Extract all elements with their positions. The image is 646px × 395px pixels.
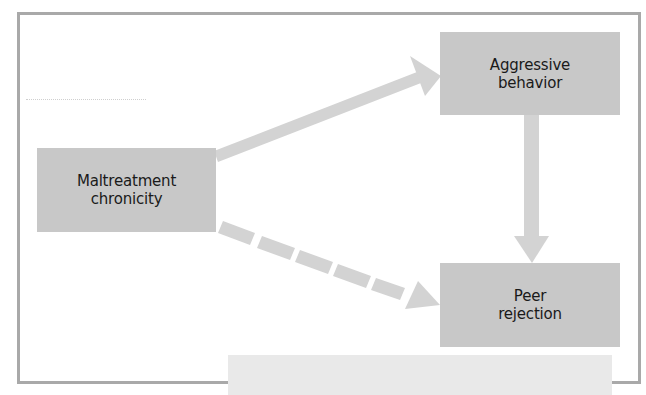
node-peer-rejection: Peer rejection <box>440 263 620 347</box>
arrow-aggressive-to-peer <box>514 115 549 263</box>
node-label-line: behavior <box>490 74 570 92</box>
arrow-maltreatment-to-aggressive <box>214 56 441 162</box>
arrow-maltreatment-to-peer-dashed <box>218 221 440 309</box>
node-maltreatment-chronicity: Maltreatment chronicity <box>37 148 216 232</box>
node-label-line: rejection <box>498 305 562 323</box>
node-label-line: Maltreatment <box>77 172 176 190</box>
node-label-line: Peer <box>498 287 562 305</box>
node-aggressive-behavior: Aggressive behavior <box>440 32 620 115</box>
caption-strip <box>228 355 612 395</box>
node-label-line: Aggressive <box>490 56 570 74</box>
node-label-line: chronicity <box>77 190 176 208</box>
